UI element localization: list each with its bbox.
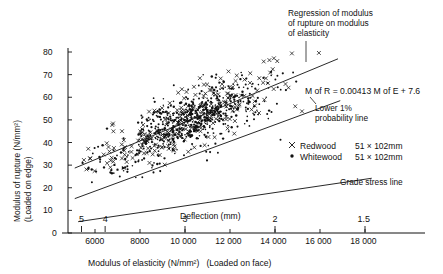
y-tick-label: 0	[52, 228, 57, 238]
x-tick-label: 10 000	[170, 236, 196, 246]
x-tick-label: 16 000	[305, 236, 331, 246]
secondary-tick-label: 4	[103, 214, 108, 224]
secondary-tick-label: 1.5	[358, 214, 371, 224]
secondary-tick-label: 3	[183, 214, 188, 224]
legend-markers	[289, 142, 295, 158]
y-tick-label: 20	[43, 183, 53, 193]
x-tick-label: 8000	[130, 236, 149, 246]
y-tick-label: 10	[43, 205, 53, 215]
y-tick-label: 30	[43, 160, 53, 170]
y-tick-label: 40	[43, 138, 53, 148]
y-tick-label: 70	[43, 70, 53, 80]
secondary-tick-label: 5	[79, 214, 84, 224]
chart-figure: Modulus of rupture (N/mm²) (Loaded on ed…	[0, 0, 443, 274]
y-tick-label: 50	[43, 115, 53, 125]
x-tick-label: 6000	[85, 236, 104, 246]
x-tick-label: 18 000	[350, 236, 376, 246]
axis-ticks	[68, 52, 365, 233]
y-tick-label: 80	[43, 47, 53, 57]
chart-canvas	[0, 0, 443, 274]
x-tick-label: 14 000	[260, 236, 286, 246]
x-tick-label: 12 000	[215, 236, 241, 246]
secondary-tick-label: 2	[273, 214, 278, 224]
y-tick-label: 60	[43, 92, 53, 102]
scatter-points	[81, 51, 320, 183]
axes	[62, 48, 425, 233]
leader-lines	[306, 41, 316, 104]
